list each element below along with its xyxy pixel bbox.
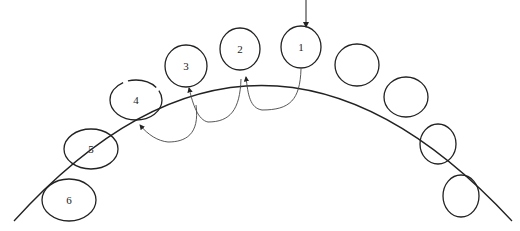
tooth-4: 4: [110, 80, 162, 120]
tooth-label: 1: [298, 41, 304, 53]
tooth-6: 6: [42, 179, 96, 221]
tooth-1: 1: [281, 26, 321, 68]
tooth-label: 5: [88, 143, 94, 155]
tooth-outline: [443, 175, 479, 217]
tooth-unlabeled: [443, 175, 479, 217]
tooth-5: 5: [64, 129, 118, 169]
arrow-3-to-4: [140, 105, 197, 142]
tooth-3: 3: [165, 45, 207, 87]
tooth-label: 3: [183, 60, 189, 72]
tooth-unlabeled: [335, 44, 379, 86]
tooth-label: 4: [133, 94, 139, 106]
tooth-outline: [384, 77, 428, 117]
tooth-2: 2: [220, 28, 260, 70]
tooth-label: 6: [66, 194, 72, 206]
dental-arch-diagram: 123456: [0, 0, 520, 231]
teeth-group: 123456: [42, 26, 479, 221]
tooth-unlabeled: [384, 77, 428, 117]
tooth-label: 2: [237, 43, 243, 55]
tooth-outline: [335, 44, 379, 86]
sequence-arrows: [140, 69, 301, 142]
diagram-svg: 123456: [0, 0, 520, 231]
arrow-1-to-2: [246, 69, 301, 110]
